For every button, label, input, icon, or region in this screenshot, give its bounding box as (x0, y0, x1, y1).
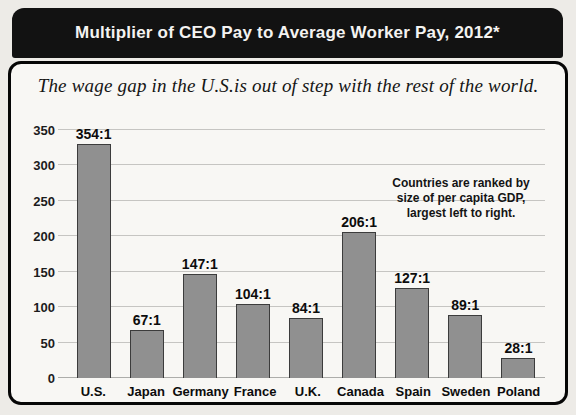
y-tick-label-50: 50 (41, 335, 55, 350)
y-tick-label-300: 300 (33, 158, 55, 173)
bar (448, 315, 482, 378)
x-axis-labels: U.S.JapanGermanyFranceU.K.CanadaSpainSwe… (67, 384, 545, 399)
y-tick-label-350: 350 (33, 122, 55, 137)
x-axis-label-Canada: Canada (334, 384, 387, 399)
bar-column-U.K.: 84:1 (279, 126, 332, 378)
annotation-line-2: size of per capita GDP, (381, 191, 541, 206)
bar-column-France: 104:1 (226, 126, 279, 378)
bar-column-Japan: 67:1 (120, 126, 173, 378)
bars: 354:167:1147:1104:184:1206:1127:189:128:… (67, 126, 545, 378)
bar-value-label: 84:1 (292, 300, 320, 316)
bar (395, 288, 429, 378)
bar (183, 274, 217, 378)
ranking-annotation: Countries are ranked by size of per capi… (381, 176, 541, 221)
y-axis: 050100150200250300350 (19, 126, 57, 378)
x-axis-label-Spain: Spain (387, 384, 440, 399)
bar (77, 144, 111, 378)
x-axis-label-France: France (229, 384, 282, 399)
bar (289, 318, 323, 378)
bar-column-Spain: 127:1 (386, 126, 439, 378)
bar (130, 330, 164, 378)
chart-panel: The wage gap in the U.S.is out of step w… (8, 61, 568, 405)
bar-value-label: 147:1 (182, 256, 218, 272)
bar-column-Poland: 28:1 (492, 126, 545, 378)
y-tick-label-0: 0 (48, 371, 55, 386)
x-axis-label-Japan: Japan (120, 384, 173, 399)
bar-value-label: 127:1 (394, 270, 430, 286)
bar-column-Sweden: 89:1 (439, 126, 492, 378)
y-tick-label-100: 100 (33, 300, 55, 315)
y-tick-label-250: 250 (33, 193, 55, 208)
annotation-line-3: largest left to right. (381, 206, 541, 221)
x-axis-label-U.S.: U.S. (67, 384, 120, 399)
annotation-line-1: Countries are ranked by (381, 176, 541, 191)
bar (342, 232, 376, 378)
y-tick-label-200: 200 (33, 229, 55, 244)
bar-value-label: 67:1 (133, 312, 161, 328)
bar-column-Canada: 206:1 (333, 126, 386, 378)
x-axis-label-U.K.: U.K. (281, 384, 334, 399)
x-axis-label-Poland: Poland (492, 384, 545, 399)
x-axis-label-Sweden: Sweden (440, 384, 493, 399)
bar-value-label: 104:1 (235, 286, 271, 302)
chart-subtitle: The wage gap in the U.S.is out of step w… (11, 75, 565, 97)
chart-title: Multiplier of CEO Pay to Average Worker … (75, 23, 500, 43)
plot-area: 354:167:1147:1104:184:1206:1127:189:128:… (67, 126, 549, 378)
bar-value-label: 354:1 (76, 126, 112, 142)
x-axis-label-Germany: Germany (172, 384, 228, 399)
y-tick-label-150: 150 (33, 264, 55, 279)
bar-column-Germany: 147:1 (173, 126, 226, 378)
bar (236, 304, 270, 378)
bar-value-label: 89:1 (451, 297, 479, 313)
bar (501, 358, 535, 378)
bar-value-label: 28:1 (504, 340, 532, 356)
bar-value-label: 206:1 (341, 214, 377, 230)
chart-title-bar: Multiplier of CEO Pay to Average Worker … (12, 8, 563, 58)
bar-column-U.S.: 354:1 (67, 126, 120, 378)
